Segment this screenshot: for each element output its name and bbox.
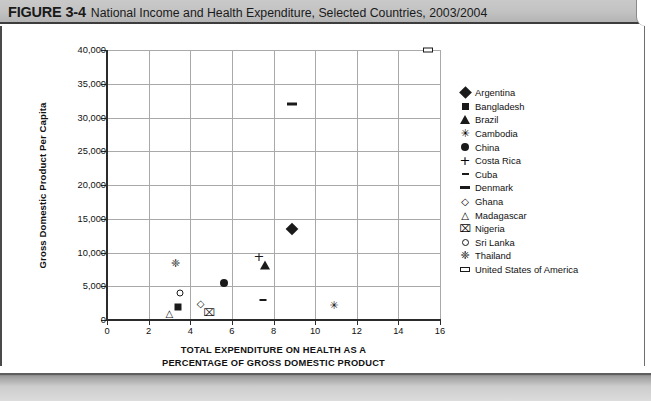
gridline-vertical: [274, 50, 275, 320]
legend-item: ❈Thailand: [458, 249, 608, 263]
figure-page: FIGURE 3-4National Income and Health Exp…: [0, 0, 651, 401]
legend-item: China: [458, 140, 608, 154]
marker-circle-filled-icon: [461, 143, 469, 151]
legend-item: United States of America: [458, 263, 608, 277]
legend-item: ⌧Nigeria: [458, 222, 608, 236]
legend-item: Sri Lanka: [458, 236, 608, 250]
legend-label: Cambodia: [475, 128, 518, 139]
marker-circle-open-icon: [462, 239, 469, 246]
figure-caption: FIGURE 3-4National Income and Health Exp…: [8, 3, 487, 21]
marker-plus-icon: +: [253, 249, 264, 262]
legend-item: Denmark: [458, 181, 608, 195]
legend-label: Sri Lanka: [475, 237, 515, 248]
legend-item: Bangladesh: [458, 100, 608, 114]
legend-label: Madagascar: [475, 210, 527, 221]
data-point: [220, 279, 228, 287]
legend-marker: ◇: [458, 195, 472, 208]
gridline-vertical: [398, 50, 399, 320]
legend-label: Argentina: [475, 87, 515, 98]
legend-label: Costa Rica: [475, 155, 521, 166]
legend-marker: ✳: [458, 127, 472, 140]
x-tick: [315, 320, 316, 325]
data-point: [176, 290, 183, 297]
marker-asterisk-icon: ✳: [460, 127, 469, 140]
legend-item: ✳Cambodia: [458, 127, 608, 141]
y-tick-label: 15,000: [78, 214, 106, 224]
legend-marker: [458, 141, 472, 154]
gridline-vertical: [149, 50, 150, 320]
marker-diamond-open-icon: ◇: [461, 196, 469, 207]
x-tick: [190, 320, 191, 325]
data-point: [174, 303, 181, 310]
data-point: +: [253, 249, 264, 262]
legend-marker: [458, 181, 472, 194]
legend-label: Denmark: [475, 182, 513, 193]
marker-plus-icon: +: [460, 153, 471, 168]
marker-circle-open-icon: [176, 290, 183, 297]
legend-item: ◇Ghana: [458, 195, 608, 209]
legend-label: Nigeria: [475, 223, 505, 234]
gridline-vertical: [232, 50, 233, 320]
y-tick-label: 25,000: [78, 146, 106, 156]
header-corner-notch: [636, 0, 645, 26]
legend-item: Brazil: [458, 113, 608, 127]
x-axis-title: TOTAL EXPENDITURE ON HEALTH AS A PERCENT…: [107, 344, 440, 369]
x-tick-label: 16: [435, 326, 445, 336]
marker-diamond-filled-icon: [286, 223, 299, 236]
marker-boxed-x-icon: ⌧: [203, 308, 215, 318]
figure-header-band: FIGURE 3-4National Income and Health Exp…: [0, 0, 645, 24]
legend-item: +Costa Rica: [458, 154, 608, 168]
data-point: [287, 103, 297, 106]
y-tick-label: 30,000: [78, 113, 106, 123]
x-tick-label: 2: [146, 326, 151, 336]
chart-legend: ArgentinaBangladeshBrazil✳CambodiaChina+…: [458, 86, 608, 276]
y-tick-label: 5,000: [83, 281, 106, 291]
y-tick-label: 20,000: [78, 180, 106, 190]
x-axis-title-line1: TOTAL EXPENDITURE ON HEALTH AS A: [107, 344, 440, 357]
marker-square-filled-icon: [462, 103, 469, 110]
legend-marker: [458, 236, 472, 249]
x-tick-label: 6: [229, 326, 234, 336]
legend-label: United States of America: [475, 264, 578, 275]
marker-diamond-cross-icon: ❈: [460, 249, 469, 262]
marker-rect-open-icon: [460, 267, 470, 272]
y-tick-label: 35,000: [78, 79, 106, 89]
x-tick-label: 8: [271, 326, 276, 336]
gridline-vertical: [440, 50, 441, 320]
x-tick-label: 14: [393, 326, 403, 336]
legend-marker: [458, 100, 472, 113]
marker-diamond-cross-icon: ❈: [171, 257, 180, 268]
x-tick-label: 4: [188, 326, 193, 336]
legend-marker: △: [458, 209, 472, 222]
data-point: ⌧: [203, 308, 215, 318]
x-tick-label: 0: [104, 326, 109, 336]
data-point: △: [166, 309, 174, 319]
marker-triangle-open-icon: △: [461, 210, 469, 221]
gridline-vertical: [190, 50, 191, 320]
y-axis-title-text: Gross Domestic Product Per Capita: [38, 102, 49, 268]
marker-rect-open-icon: [423, 48, 433, 53]
marker-asterisk-icon: ✳: [329, 300, 338, 311]
legend-label: Ghana: [475, 196, 503, 207]
x-tick: [398, 320, 399, 325]
legend-item: Argentina: [458, 86, 608, 100]
y-tick-label: 40,000: [78, 45, 106, 55]
y-tick-label: 10,000: [78, 248, 106, 258]
legend-label: China: [475, 142, 500, 153]
plot-area: 05,00010,00015,00020,00025,00030,00035,0…: [107, 50, 440, 320]
marker-dash-large-icon: [460, 186, 470, 189]
marker-dash-small-icon: [260, 299, 267, 301]
legend-marker: [458, 263, 472, 276]
x-tick: [107, 320, 108, 325]
data-point: [288, 224, 297, 233]
legend-marker: ❈: [458, 249, 472, 262]
data-point: [260, 299, 267, 301]
y-axis-title: Gross Domestic Product Per Capita: [36, 50, 50, 320]
legend-marker: [458, 86, 472, 99]
x-tick: [149, 320, 150, 325]
data-point: ✳: [329, 300, 338, 311]
figure-footer-rule: [0, 373, 651, 375]
figure-title: National Income and Health Expenditure, …: [91, 6, 488, 20]
marker-dash-large-icon: [287, 103, 297, 106]
legend-label: Cuba: [475, 169, 497, 180]
